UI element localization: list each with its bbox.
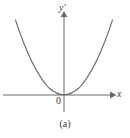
x-axis-label: x [117,89,121,99]
figure-container: y′ x 0 (a) [0,0,130,138]
origin-label: 0 [56,96,61,106]
x-axis-arrowhead [110,92,117,99]
figure-caption: (a) [0,119,130,129]
y-axis-label: y′ [59,3,66,13]
